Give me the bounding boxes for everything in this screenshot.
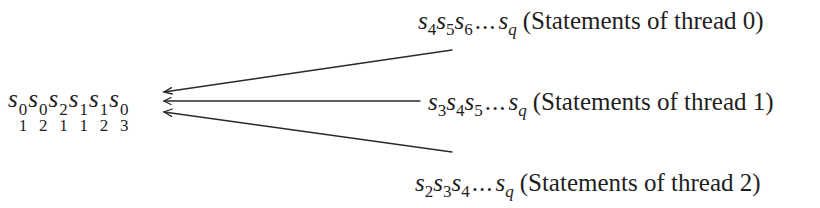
thread-2-caption: (Statements of thread 2) xyxy=(520,169,761,196)
term-subscript: 3 xyxy=(120,118,129,134)
merged-sequence: s01s02s21s11s12s03 xyxy=(8,86,129,134)
term-subscript: 1 xyxy=(19,118,28,134)
merged-term: s xyxy=(89,85,99,112)
term-subscript: 6 xyxy=(464,20,473,39)
thread-0-sequence: s4s5s6...sq(Statements of thread 0) xyxy=(418,8,764,38)
term-subscript: 4 xyxy=(428,20,437,39)
merged-term: s xyxy=(109,85,119,112)
term-subscript: 1 xyxy=(59,118,68,134)
ellipsis: ... xyxy=(472,169,494,196)
thread-2-sequence: s2s3s4...sq(Statements of thread 2) xyxy=(415,170,761,200)
term-subscript: q xyxy=(518,101,527,120)
arrow-thread-2 xyxy=(164,109,452,152)
thread-0-caption: (Statements of thread 0) xyxy=(523,7,764,34)
thread-1-caption: (Statements of thread 1) xyxy=(533,88,774,115)
term-subscript: q xyxy=(505,182,514,201)
arrow-thread-0 xyxy=(164,50,452,94)
term-subscript: 3 xyxy=(438,101,447,120)
term-subscript: 2 xyxy=(100,118,109,134)
merged-term: s xyxy=(28,85,38,112)
ellipsis: ... xyxy=(475,7,497,34)
term-subscript: 4 xyxy=(461,182,470,201)
term-subscript: 1 xyxy=(79,118,88,134)
merged-term: s xyxy=(8,85,18,112)
merged-term: s xyxy=(69,85,79,112)
ellipsis: ... xyxy=(485,88,507,115)
term-subscript: 2 xyxy=(39,118,48,134)
term-subscript: q xyxy=(508,20,517,39)
term-subscript: 5 xyxy=(474,101,483,120)
term-subscript: 2 xyxy=(425,182,434,201)
thread-1-sequence: s3s4s5...sq(Statements of thread 1) xyxy=(428,89,774,119)
arrow-thread-1 xyxy=(164,98,420,105)
merged-term: s xyxy=(48,85,58,112)
